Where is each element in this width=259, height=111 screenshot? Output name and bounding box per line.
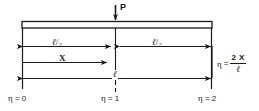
station-left-equals: = (15, 94, 20, 103)
station-center-value: 1 (115, 94, 119, 103)
equation-numerator: 2 X (230, 54, 246, 63)
station-left-symbol: η (8, 93, 13, 103)
station-center-equals: = (108, 94, 113, 103)
station-label-center: η = 1 (101, 94, 119, 103)
half-span-left-denominator: 2 (58, 41, 62, 49)
station-right-symbol: η (198, 93, 203, 103)
equation-eta-definition: η = 2 X ℓ (217, 54, 246, 74)
load-label-p: P (120, 3, 126, 12)
dimension-label-half-span-right: ℓ/2 (152, 38, 162, 47)
station-center-symbol: η (101, 93, 106, 103)
extension-lines (23, 28, 212, 92)
equation-denominator: ℓ (235, 64, 241, 74)
dimension-label-full-span: ℓ (112, 70, 118, 79)
equation-equals-sign: = (224, 60, 229, 68)
dimension-label-x: X (59, 54, 66, 63)
beam-member (22, 22, 212, 29)
station-right-equals: = (205, 94, 210, 103)
station-label-right: η = 2 (198, 94, 216, 103)
equation-fraction: 2 X ℓ (230, 54, 246, 74)
dimension-label-half-span-left: ℓ/2 (52, 38, 62, 47)
station-left-value: 0 (22, 94, 26, 103)
station-right-value: 2 (212, 94, 216, 103)
station-label-left: η = 0 (8, 94, 26, 103)
equation-eta-symbol: η (217, 60, 222, 69)
half-span-right-denominator: 2 (158, 41, 162, 49)
beam-loading-diagram: P ℓ/2 ℓ/2 X ℓ η = 2 X ℓ η = 0 η = 1 η = … (0, 0, 259, 111)
